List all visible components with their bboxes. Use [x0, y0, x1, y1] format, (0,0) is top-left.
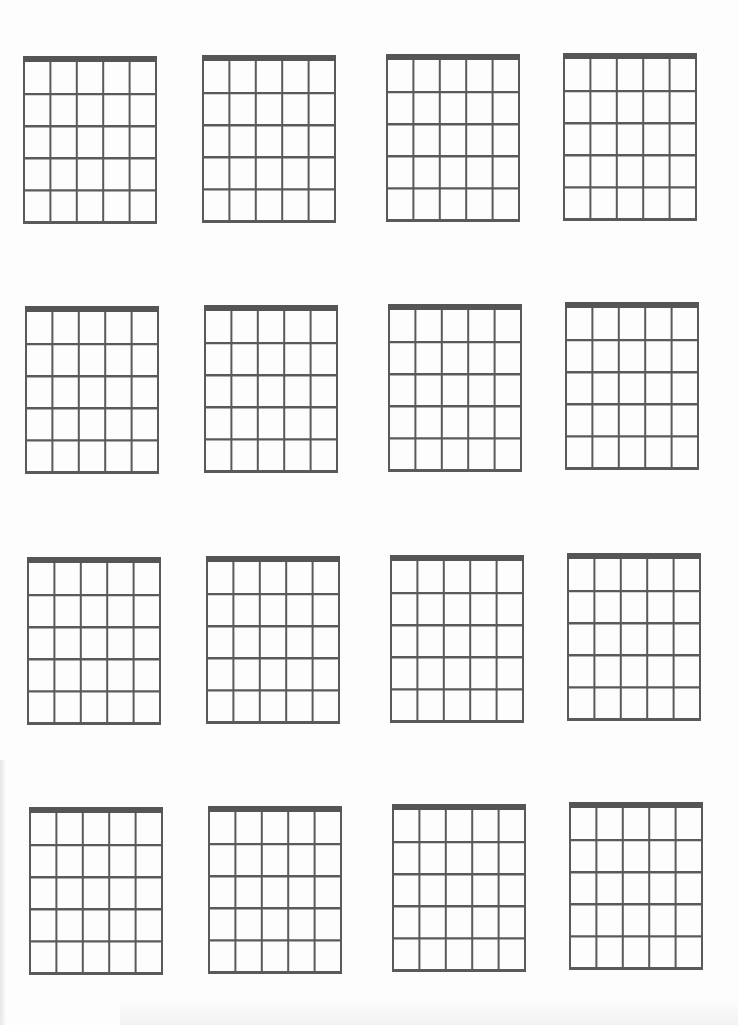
- nut: [206, 556, 340, 562]
- chord-diagram: [563, 53, 697, 221]
- fretboard-grid: [388, 304, 522, 472]
- nut: [563, 53, 697, 59]
- chord-diagram: [204, 305, 338, 473]
- chord-diagram: [202, 55, 336, 223]
- chord-diagram: [27, 557, 161, 725]
- fretboard-grid: [204, 305, 338, 473]
- fretboard-grid: [208, 806, 342, 974]
- chord-diagram: [392, 804, 526, 972]
- fretboard-grid: [565, 302, 699, 470]
- fretboard-grid: [23, 56, 157, 224]
- nut: [204, 305, 338, 311]
- nut: [386, 54, 520, 60]
- fretboard-grid: [390, 555, 524, 723]
- chord-diagram: [208, 806, 342, 974]
- chord-diagram: [25, 306, 159, 474]
- chord-diagram: [567, 553, 701, 721]
- fretboard-grid: [392, 804, 526, 972]
- nut: [390, 555, 524, 561]
- nut: [27, 557, 161, 563]
- scan-bottom-shade: [120, 997, 738, 1025]
- fretboard-grid: [202, 55, 336, 223]
- fretboard-grid: [567, 553, 701, 721]
- chord-diagram-sheet: [0, 0, 738, 1025]
- chord-diagram: [390, 555, 524, 723]
- chord-diagram: [206, 556, 340, 724]
- fretboard-grid: [386, 54, 520, 222]
- nut: [25, 306, 159, 312]
- chord-diagram: [388, 304, 522, 472]
- fretboard-grid: [27, 557, 161, 725]
- chord-diagram: [29, 807, 163, 975]
- chord-diagram: [565, 302, 699, 470]
- fretboard-grid: [29, 807, 163, 975]
- scan-edge-shadow: [0, 760, 6, 1025]
- nut: [388, 304, 522, 310]
- nut: [565, 302, 699, 308]
- nut: [569, 802, 703, 808]
- chord-diagram: [386, 54, 520, 222]
- nut: [29, 807, 163, 813]
- nut: [208, 806, 342, 812]
- fretboard-grid: [569, 802, 703, 970]
- chord-diagram: [569, 802, 703, 970]
- nut: [23, 56, 157, 62]
- nut: [392, 804, 526, 810]
- fretboard-grid: [563, 53, 697, 221]
- nut: [567, 553, 701, 559]
- fretboard-grid: [206, 556, 340, 724]
- nut: [202, 55, 336, 61]
- chord-diagram: [23, 56, 157, 224]
- fretboard-grid: [25, 306, 159, 474]
